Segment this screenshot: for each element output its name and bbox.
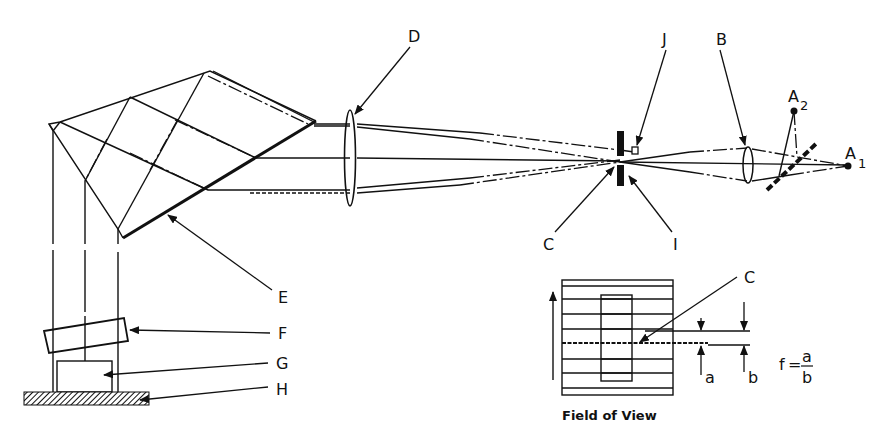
label-b: b (748, 368, 758, 387)
svg-text:f: f (779, 355, 785, 374)
label-H: H (276, 380, 288, 399)
light-source-A2 (791, 108, 798, 115)
field-of-view-inset (553, 277, 750, 395)
label-J: J (661, 30, 667, 49)
label-I: I (673, 235, 678, 254)
inset-caption: Field of View (562, 408, 657, 423)
slit-diaphragm-I (617, 131, 624, 186)
label-C-top: C (543, 235, 554, 254)
label-G: G (276, 354, 288, 373)
optical-diagram: D J B A2 A1 C I E F G H (0, 0, 890, 439)
beam-splitter (767, 142, 818, 190)
specimen-block-G (57, 361, 112, 392)
aperture-J (632, 147, 638, 154)
label-F: F (278, 324, 287, 343)
label-D: D (408, 27, 420, 46)
label-B: B (716, 30, 727, 49)
svg-text:b: b (802, 368, 812, 387)
label-C-inset: C (744, 268, 755, 287)
prism-reflecting-face-E (123, 121, 316, 238)
formula: f = a b (779, 347, 813, 387)
svg-text:=: = (788, 355, 801, 374)
light-source-A1 (845, 163, 852, 170)
label-a: a (705, 368, 715, 387)
condenser-lens-B (743, 147, 753, 183)
base-surface-H (24, 392, 149, 405)
prism (49, 71, 316, 238)
vertical-rays (53, 131, 118, 392)
svg-text:a: a (802, 347, 812, 366)
label-E: E (278, 288, 288, 307)
tilted-plate-F (44, 318, 128, 353)
label-A2: A2 (788, 87, 808, 113)
label-pointers (104, 47, 745, 400)
